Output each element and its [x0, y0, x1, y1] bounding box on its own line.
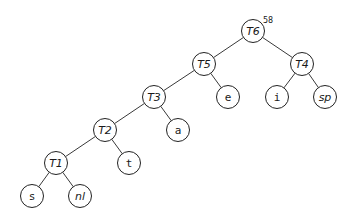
node-label: sp [319, 91, 332, 104]
edge-T2-T1 [66, 136, 96, 156]
tree-node-a: a [167, 119, 190, 142]
edge-T1-nl [63, 172, 73, 186]
tree-node-s: s [21, 185, 44, 208]
node-label: a [175, 124, 182, 137]
huffman-tree-diagram: T6T5T4T3eispT2aT1tsnl 58 [0, 0, 353, 220]
edge-T4-i [284, 73, 295, 88]
node-label: i [274, 91, 281, 104]
tree-node-sp: sp [314, 86, 337, 109]
node-label: T3 [147, 91, 161, 104]
edge-T6-T4 [263, 37, 293, 57]
node-label: T1 [49, 157, 63, 170]
edge-T3-T2 [115, 103, 145, 123]
tree-node-T3: T3 [143, 86, 166, 109]
node-label: t [126, 157, 133, 170]
node-label: e [225, 91, 232, 104]
tree-node-T6: T6 [242, 20, 265, 43]
tree-node-T1: T1 [45, 152, 68, 175]
edge-T5-e [211, 73, 221, 87]
edge-T2-t [112, 139, 122, 153]
tree-node-T4: T4 [291, 53, 314, 76]
root-weight-label: 58 [263, 16, 273, 25]
node-label: T2 [98, 124, 112, 137]
tree-canvas: T6T5T4T3eispT2aT1tsnl 58 [0, 0, 353, 220]
edge-T1-s [39, 172, 49, 186]
tree-node-T5: T5 [193, 53, 216, 76]
tree-edges [39, 37, 319, 186]
node-label: T4 [295, 58, 309, 71]
tree-node-t: t [118, 152, 141, 175]
tree-node-T2: T2 [94, 119, 117, 142]
tree-node-i: i [266, 86, 289, 109]
edge-T3-a [161, 106, 171, 120]
edge-T5-T3 [164, 70, 195, 90]
node-label: T5 [197, 58, 211, 71]
edge-T4-sp [309, 73, 319, 87]
edge-T6-T5 [214, 37, 244, 57]
node-label: T6 [246, 25, 260, 38]
tree-node-nl: nl [69, 185, 92, 208]
node-label: s [29, 190, 36, 203]
tree-node-e: e [217, 86, 240, 109]
node-label: nl [75, 190, 85, 203]
